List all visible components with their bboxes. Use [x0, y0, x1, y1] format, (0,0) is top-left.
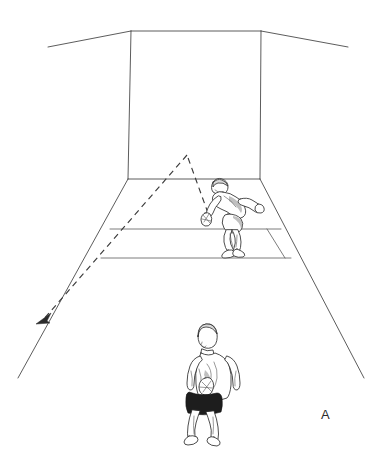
trajectory-ball-to-wall: [187, 155, 208, 213]
service-box-side-line: [267, 229, 285, 258]
server-player: [201, 178, 264, 258]
receiver-player: [184, 324, 240, 446]
server-hand-back: [255, 204, 264, 213]
figure-root: A: [0, 0, 382, 450]
right-sidewall-floor-line: [260, 179, 364, 378]
left-sidewall-floor-line: [18, 179, 128, 378]
receiver-left-shoe: [184, 436, 198, 445]
front-wall-right-edge: [260, 31, 261, 179]
front-wall-left-edge: [128, 31, 131, 179]
court-diagram-svg: [0, 0, 382, 450]
trajectory-arrow-head: [36, 313, 51, 324]
trajectory-wall-rebound: [43, 155, 187, 320]
court-structure: [18, 31, 364, 378]
ceiling-left-edge: [48, 31, 131, 47]
panel-label-a: A: [321, 407, 330, 422]
server-back-shoe: [233, 249, 245, 257]
ball-trajectory: [36, 155, 208, 324]
ceiling-right-edge: [261, 31, 348, 47]
